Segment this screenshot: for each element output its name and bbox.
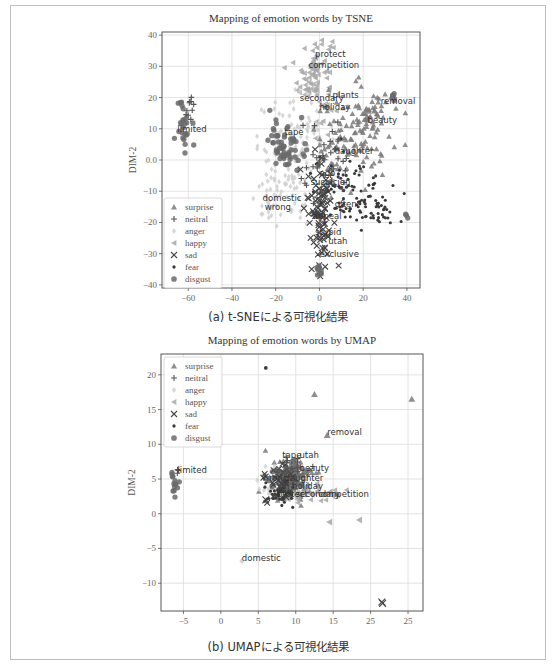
y-tick-label: 0.0 xyxy=(146,155,158,165)
word-label: daughter xyxy=(335,146,374,156)
umap-caption: (b) UMAPによる可視化結果 xyxy=(0,638,556,654)
legend-label: happy xyxy=(185,397,207,407)
y-tick-label: 20 xyxy=(147,370,157,380)
x-tick-label: −40 xyxy=(225,293,240,303)
word-label: plants xyxy=(333,90,360,100)
legend-label: anger xyxy=(185,226,205,236)
chart-title: Mapping of emotion words by UMAP xyxy=(208,334,376,346)
x-tick-label: 40 xyxy=(402,293,412,303)
legend-label: sad xyxy=(185,409,197,419)
y-tick-label: 10 xyxy=(148,124,158,134)
legend-label: surprise xyxy=(185,202,214,212)
word-label: beauty xyxy=(299,463,329,473)
tsne-caption: (a) t-SNEによる可視化結果 xyxy=(0,308,556,324)
x-tick-label: 5 xyxy=(256,616,261,625)
word-label: beauty xyxy=(368,115,398,125)
y-tick-label: 0 xyxy=(152,509,157,519)
y-tick-label: 15 xyxy=(147,405,157,415)
word-label: limited xyxy=(177,465,206,475)
legend-label: neitral xyxy=(185,214,208,224)
word-label: often xyxy=(335,199,357,209)
legend-label: anger xyxy=(185,385,205,395)
y-tick-label: −20 xyxy=(143,217,158,227)
chart-title: Mapping of emotion words by TSNE xyxy=(209,12,373,24)
word-label: protect xyxy=(315,49,346,59)
tsne-chart: Mapping of emotion words by TSNE−60−40−2… xyxy=(0,10,556,305)
x-tick-label: −60 xyxy=(181,293,196,303)
x-axis-label: DIM-1 xyxy=(278,304,305,305)
y-axis-label: DIM-2 xyxy=(128,147,138,174)
word-label: exclusive xyxy=(319,249,358,259)
x-tick-label: −5 xyxy=(179,616,189,625)
x-tick-label: 25 xyxy=(366,616,376,625)
y-tick-label: −10 xyxy=(143,186,158,196)
y-tick-label: −5 xyxy=(146,543,156,553)
y-tick-label: 10 xyxy=(147,439,157,449)
word-label: limited xyxy=(177,124,206,134)
word-label: competition xyxy=(318,489,369,499)
word-label: utah xyxy=(299,450,318,460)
x-tick-label: 25 xyxy=(404,616,414,625)
word-label: appeal xyxy=(313,211,342,221)
legend: surpriseneitralangerhappysadfeardisgust xyxy=(164,198,222,288)
x-tick-label: 10 xyxy=(291,616,301,625)
y-axis-label: DIM-2 xyxy=(127,469,137,496)
word-label: removal xyxy=(381,96,416,106)
y-tick-label: −10 xyxy=(142,578,157,588)
word-label: utah xyxy=(328,236,347,246)
word-label: holiday xyxy=(319,102,350,112)
word-label: tape xyxy=(284,127,303,137)
y-tick-label: 40 xyxy=(148,30,158,40)
y-tick-label: 30 xyxy=(148,61,158,71)
x-tick-label: −20 xyxy=(269,293,284,303)
legend-label: surprise xyxy=(185,361,214,371)
y-tick-label: 5 xyxy=(152,474,157,484)
legend-label: sad xyxy=(185,250,197,260)
legend: surpriseneitralangerhappysadfeardisgust xyxy=(164,357,222,447)
legend-label: disgust xyxy=(185,274,211,284)
word-label: domestic xyxy=(242,553,281,563)
x-tick-label: 20 xyxy=(359,293,369,303)
y-tick-label: 20 xyxy=(148,93,158,103)
legend-label: fear xyxy=(185,421,199,431)
word-label: competition xyxy=(308,60,359,70)
legend-label: disgust xyxy=(185,433,211,443)
word-label: wrong xyxy=(265,202,291,212)
x-tick-label: 0 xyxy=(219,616,224,625)
x-tick-label: 0 xyxy=(317,293,322,303)
word-label: removal xyxy=(327,427,362,437)
legend-label: happy xyxy=(185,238,207,248)
word-label: suspicion xyxy=(311,177,351,187)
y-tick-label: −30 xyxy=(143,249,158,259)
x-tick-label: 15 xyxy=(329,616,339,625)
umap-chart: Mapping of emotion words by UMAP−5051015… xyxy=(0,330,556,625)
y-tick-label: −40 xyxy=(143,280,158,290)
legend-label: fear xyxy=(185,262,199,272)
legend-label: neitral xyxy=(185,373,208,383)
